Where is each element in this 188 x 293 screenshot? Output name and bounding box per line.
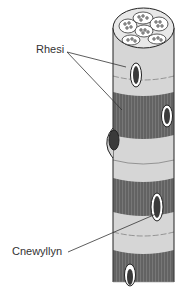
dark-band-2: [113, 178, 174, 216]
label-rhesi: Rhesi: [36, 43, 64, 55]
cell-2: [162, 105, 173, 127]
cell-4: [151, 193, 163, 221]
label-cnewyllyn: Cnewyllyn: [12, 245, 62, 257]
cell-1: [131, 63, 142, 87]
cross-section-top: [113, 8, 174, 48]
cell-5: [125, 264, 136, 286]
dark-band-3: [113, 250, 174, 282]
